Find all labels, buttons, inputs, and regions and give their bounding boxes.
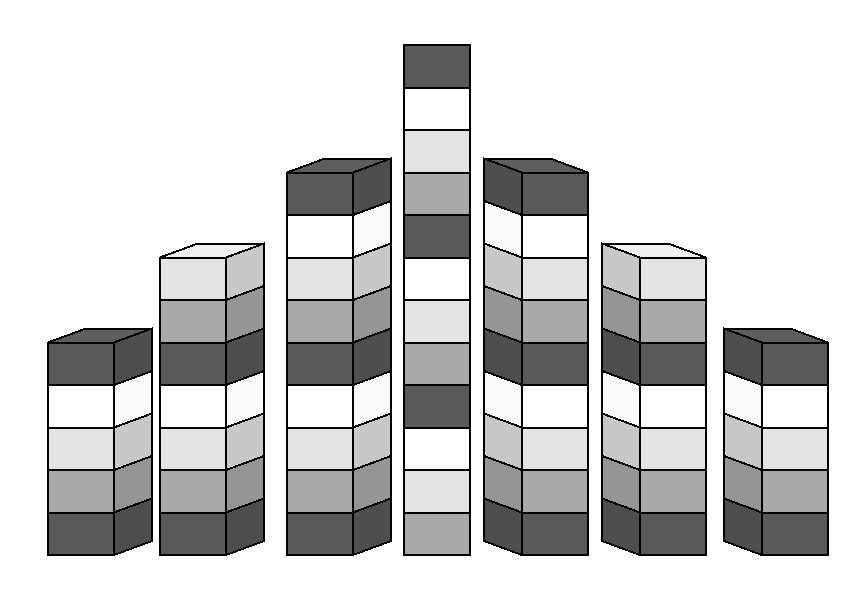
bar-1-segment-5-front (48, 513, 114, 556)
bar-5-segment-6-front (522, 385, 588, 428)
bar-5-segment-9-front (522, 513, 588, 556)
bar-7 (724, 329, 828, 556)
bar-2-segment-6-front (160, 470, 226, 513)
bar-3-segment-8-front (287, 470, 353, 513)
bar-2-segment-2-front (160, 300, 226, 343)
bar-6-segment-3-front (640, 343, 706, 386)
bar-3-segment-2-front (287, 215, 353, 258)
bar-4-segment-1-front (404, 45, 470, 88)
bar-2-segment-7-front (160, 513, 226, 556)
bar-5-segment-4-front (522, 300, 588, 343)
bar-4-segment-10-front (404, 428, 470, 471)
stacked-bar-3d-chart (0, 0, 862, 592)
bar-4-segment-2-front (404, 88, 470, 131)
bar-4-segment-11-front (404, 470, 470, 513)
bar-5-segment-7-front (522, 428, 588, 471)
bar-5-segment-5-front (522, 343, 588, 386)
bar-4-segment-9-front (404, 385, 470, 428)
bar-5-segment-1-front (522, 173, 588, 216)
bar-5-segment-3-front (522, 258, 588, 301)
bar-3-segment-9-front (287, 513, 353, 556)
bar-4-segment-8-front (404, 343, 470, 386)
bar-2-segment-1-front (160, 258, 226, 301)
chart-canvas (0, 0, 862, 592)
bar-1-segment-4-front (48, 470, 114, 513)
bar-6 (602, 244, 706, 556)
bar-5-segment-2-front (522, 215, 588, 258)
bar-3-segment-1-front (287, 173, 353, 216)
bar-6-segment-4-front (640, 385, 706, 428)
bar-4-segment-6-front (404, 258, 470, 301)
bar-4-segment-12-front (404, 513, 470, 556)
bar-2-segment-3-front (160, 343, 226, 386)
bar-3-segment-5-front (287, 343, 353, 386)
bar-5 (484, 159, 588, 556)
bar-7-segment-5-front (762, 513, 828, 556)
bar-4-segment-7-front (404, 300, 470, 343)
bar-4-segment-5-front (404, 215, 470, 258)
bar-5-segment-8-front (522, 470, 588, 513)
bar-2-segment-4-front (160, 385, 226, 428)
bar-7-segment-3-front (762, 428, 828, 471)
bar-2-segment-5-front (160, 428, 226, 471)
bar-6-segment-6-front (640, 470, 706, 513)
bar-6-segment-2-front (640, 300, 706, 343)
bar-6-segment-7-front (640, 513, 706, 556)
bar-4 (404, 45, 470, 555)
bar-4-segment-3-front (404, 130, 470, 173)
bar-1-segment-3-front (48, 428, 114, 471)
bar-3 (287, 159, 391, 556)
bar-2 (160, 244, 264, 556)
bar-3-segment-4-front (287, 300, 353, 343)
bar-3-segment-3-front (287, 258, 353, 301)
bar-7-segment-4-front (762, 470, 828, 513)
bar-6-segment-1-front (640, 258, 706, 301)
bar-1-segment-2-front (48, 385, 114, 428)
bar-1 (48, 329, 152, 556)
bar-7-segment-1-front (762, 343, 828, 386)
bar-3-segment-6-front (287, 385, 353, 428)
bar-4-segment-4-front (404, 173, 470, 216)
bar-3-segment-7-front (287, 428, 353, 471)
bar-7-segment-2-front (762, 385, 828, 428)
bar-1-segment-1-front (48, 343, 114, 386)
bar-6-segment-5-front (640, 428, 706, 471)
